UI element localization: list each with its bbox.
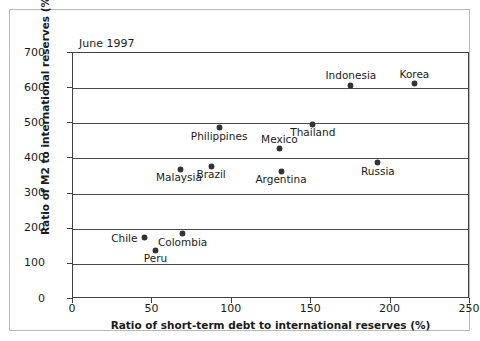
gridline-y: [73, 123, 468, 124]
data-point-label: Korea: [400, 69, 430, 80]
data-point-marker: [142, 235, 147, 240]
data-point-label: Russia: [361, 166, 395, 177]
gridline-y: [73, 229, 468, 230]
data-point-label: Mexico: [261, 134, 298, 145]
y-tick-label: 500: [24, 117, 45, 128]
figure-frame: June 1997 Ratio of M2 to international r…: [9, 9, 470, 331]
data-point-label: Malaysia: [156, 172, 202, 183]
y-tick-label: 600: [24, 82, 45, 93]
gridline-y: [73, 88, 468, 89]
x-tick-label: 250: [459, 303, 480, 314]
data-point-label: Indonesia: [326, 70, 377, 81]
y-tick-label: 400: [24, 152, 45, 163]
gridline-y: [73, 158, 468, 159]
gridline-y: [73, 264, 468, 265]
data-point-marker: [277, 146, 282, 151]
data-point-label: Peru: [144, 253, 167, 264]
x-tick-label: 100: [220, 303, 241, 314]
chart-figure: June 1997 Ratio of M2 to international r…: [0, 0, 480, 341]
x-tick-label: 50: [144, 303, 158, 314]
y-tick-label: 200: [24, 222, 45, 233]
data-point-marker: [412, 81, 417, 86]
data-point-marker: [348, 83, 353, 88]
gridline-y: [73, 194, 468, 195]
plot-area: IndonesiaKoreaPhilippinesThailandMexicoR…: [72, 52, 469, 298]
y-tick-label: 0: [38, 293, 45, 304]
data-point-label: Colombia: [158, 237, 207, 248]
data-point-label: Chile: [111, 232, 137, 243]
x-axis-title: Ratio of short-term debt to internationa…: [72, 319, 469, 331]
y-tick-label: 100: [24, 257, 45, 268]
y-tick-label: 300: [24, 187, 45, 198]
x-tick-label: 0: [69, 303, 76, 314]
data-point-label: Argentina: [255, 174, 306, 185]
x-tick-label: 150: [300, 303, 321, 314]
data-point-label: Philippines: [191, 131, 248, 142]
y-tick-label: 700: [24, 47, 45, 58]
x-tick-label: 200: [379, 303, 400, 314]
chart-date-annotation: June 1997: [79, 37, 134, 50]
